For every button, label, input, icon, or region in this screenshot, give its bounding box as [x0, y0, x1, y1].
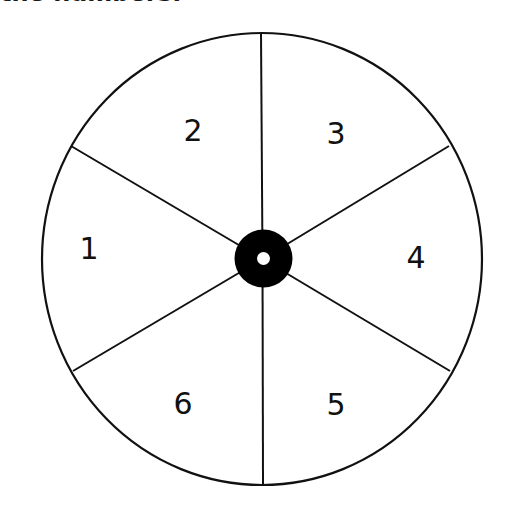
section-label-3: 3 [326, 116, 345, 151]
hub-pin-hole [257, 252, 270, 265]
section-label-5: 5 [326, 387, 345, 422]
spinner-diagram: 1 2 3 4 5 6 [0, 0, 508, 509]
spinner-hub [235, 230, 293, 288]
section-label-2: 2 [183, 113, 202, 148]
section-label-4: 4 [406, 240, 425, 275]
section-label-1: 1 [79, 231, 98, 266]
divider-bottom [263, 259, 264, 484]
section-label-6: 6 [173, 386, 192, 421]
